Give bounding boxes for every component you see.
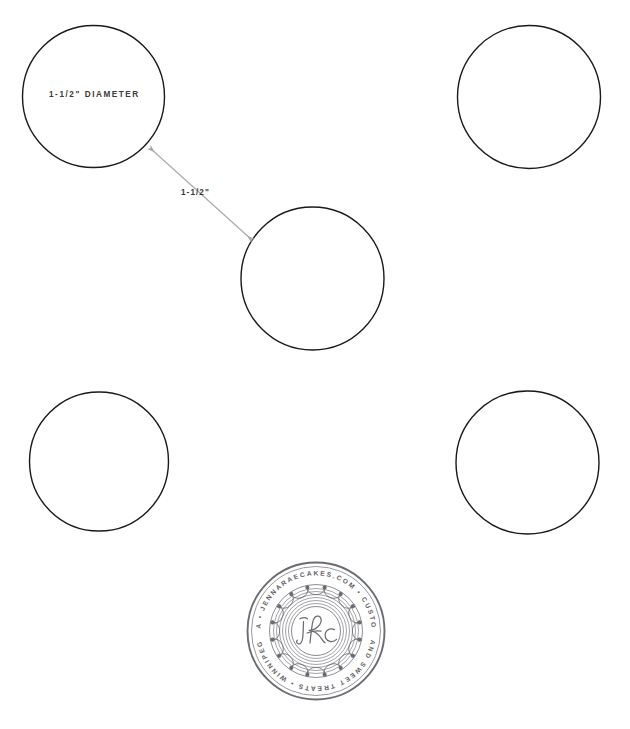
circle-middle[interactable]	[241, 207, 384, 350]
circle-bottom-right[interactable]	[456, 391, 599, 534]
spacing-dimension-label: 1-1/2"	[181, 188, 210, 197]
circle-bottom-left[interactable]	[30, 392, 169, 531]
circle-top-right[interactable]	[458, 26, 601, 169]
diameter-dimension-label: 1-1/2" DIAMETER	[49, 90, 140, 99]
template-artboard: MANITOBA • JENNARAECAKES.COM • CUSTOM CA…	[0, 0, 630, 729]
artboard-page: MANITOBA • JENNARAECAKES.COM • CUSTOM CA…	[0, 0, 630, 729]
